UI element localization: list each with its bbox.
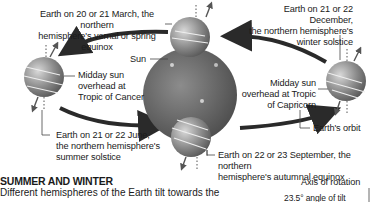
section-body: Different hemispheres of the Earth tilt … bbox=[0, 187, 219, 198]
earth-june-icon bbox=[24, 44, 64, 110]
tilt-angle-label: 23.5° angle of tilt bbox=[284, 193, 346, 202]
earths-orbit-label: Earth's orbit bbox=[313, 123, 360, 134]
march-equinox-label: Earth on 20 or 21 March, the northern he… bbox=[22, 9, 172, 53]
sun-label: Sun bbox=[130, 54, 146, 65]
june-solstice-label: Earth on 21 or 22 June, the northern hem… bbox=[56, 130, 160, 163]
section-title: SUMMER AND WINTER bbox=[0, 175, 113, 187]
axis-of-rotation-label: Axis of rotation bbox=[301, 177, 360, 188]
earth-december-icon bbox=[326, 48, 366, 115]
earth-september-icon bbox=[171, 117, 211, 170]
december-solstice-label: Earth on 21 or 22 December, the northern… bbox=[240, 4, 353, 48]
earth-march-icon bbox=[170, 4, 211, 57]
tropic-capricorn-label: Midday sun overhead at Tropic of Caprico… bbox=[240, 78, 316, 111]
tropic-cancer-label: Midday sun overhead at Tropic of Cancer bbox=[78, 70, 144, 103]
